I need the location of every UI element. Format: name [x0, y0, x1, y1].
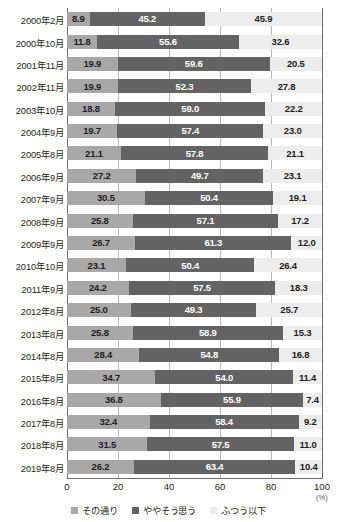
bar-row: 18.859.022.2 [67, 102, 322, 116]
bar-segment-ややそう思う: 61.3 [135, 236, 291, 250]
bar-value-label: 32.6 [272, 37, 290, 47]
bar-segment-ふつう以下: 18.3 [275, 281, 322, 295]
category-label: 2017年8月 [1, 416, 64, 430]
bar-row: 19.959.620.5 [67, 57, 322, 71]
bar-row: 25.857.117.2 [67, 214, 322, 228]
bar-value-label: 50.4 [181, 261, 199, 271]
legend-item[interactable]: その通り [71, 503, 118, 517]
category-label: 2018年8月 [1, 438, 64, 452]
bar-value-label: 50.4 [200, 193, 218, 203]
bar-value-label: 52.3 [176, 82, 194, 92]
bar-row: 28.454.816.8 [67, 348, 322, 362]
x-tick-label-0: 0 [64, 481, 69, 492]
bar-value-label: 45.9 [255, 14, 273, 24]
category-label: 2011年9月 [1, 282, 64, 296]
bar-row: 19.757.423.0 [67, 124, 322, 138]
bar-value-label: 54.8 [200, 350, 218, 360]
bar-segment-その通り: 31.5 [67, 437, 147, 451]
category-label: 2016年8月 [1, 394, 64, 408]
bar-value-label: 30.5 [97, 193, 115, 203]
bar-value-label: 61.3 [204, 238, 222, 248]
bar-row: 30.550.419.1 [67, 191, 322, 205]
bar-value-label: 7.4 [306, 395, 319, 405]
legend-label: ややそう思う [143, 503, 196, 517]
bar-row: 32.458.49.2 [67, 415, 322, 429]
bar-value-label: 19.9 [84, 82, 102, 92]
plot-area: 8.945.245.911.855.632.619.959.620.519.95… [67, 8, 322, 478]
bar-row: 26.761.312.0 [67, 236, 322, 250]
bar-value-label: 18.3 [290, 283, 308, 293]
bar-segment-その通り: 19.9 [67, 79, 118, 93]
stacked-bar-chart: 2000年2月2000年10月2001年11月2002年11月2003年10月2… [0, 0, 337, 522]
bar-value-label: 24.2 [89, 283, 107, 293]
legend-item[interactable]: ややそう思う [132, 503, 196, 517]
bar-segment-ややそう思う: 50.4 [145, 191, 274, 205]
x-tick-label-60: 60 [215, 481, 226, 492]
bar-segment-その通り: 26.2 [67, 460, 134, 474]
bar-segment-その通り: 24.2 [67, 281, 129, 295]
bar-value-label: 12.0 [298, 238, 316, 248]
bar-segment-ややそう思う: 50.4 [126, 258, 255, 272]
bar-value-label: 26.7 [92, 238, 110, 248]
bar-segment-ややそう思う: 54.0 [155, 370, 293, 384]
bar-value-label: 49.7 [191, 171, 209, 181]
bar-value-label: 25.8 [91, 216, 109, 226]
bar-segment-その通り: 19.7 [67, 124, 117, 138]
category-label: 2006年9月 [1, 170, 64, 184]
bar-segment-ふつう以下: 45.9 [205, 12, 322, 26]
bar-value-label: 19.1 [289, 193, 307, 203]
bar-value-label: 57.8 [186, 149, 204, 159]
bar-value-label: 23.1 [284, 171, 302, 181]
bar-value-label: 58.4 [215, 417, 233, 427]
bar-value-label: 15.3 [294, 328, 312, 338]
bar-row: 23.150.426.4 [67, 258, 322, 272]
bar-segment-その通り: 23.1 [67, 258, 126, 272]
bar-segment-ふつう以下: 23.0 [263, 124, 322, 138]
axis-unit-label: (%) [316, 493, 328, 502]
bar-row: 36.855.97.4 [67, 393, 322, 407]
bar-segment-ふつう以下: 22.2 [265, 102, 322, 116]
bar-value-label: 22.2 [285, 104, 303, 114]
bar-value-label: 54.0 [215, 373, 233, 383]
bar-segment-ややそう思う: 49.3 [131, 303, 257, 317]
bar-row: 34.754.011.4 [67, 370, 322, 384]
legend-label: ふつう以下 [221, 503, 266, 517]
bar-value-label: 25.0 [90, 305, 108, 315]
bar-segment-ややそう思う: 57.1 [133, 214, 278, 228]
gridline-100 [322, 8, 323, 478]
legend-swatch-futsuuika [210, 507, 217, 514]
bar-segment-ややそう思う: 57.8 [121, 146, 268, 160]
bar-value-label: 31.5 [98, 440, 116, 450]
legend-swatch-yayasoomou [132, 507, 139, 514]
bar-value-label: 11.4 [299, 373, 316, 383]
bar-value-label: 19.7 [83, 126, 101, 136]
bar-value-label: 59.0 [181, 104, 199, 114]
bar-segment-ややそう思う: 57.5 [147, 437, 294, 451]
bar-segment-ややそう思う: 57.5 [129, 281, 276, 295]
bar-row: 31.557.511.0 [67, 437, 322, 451]
category-label: 2019年8月 [1, 461, 64, 475]
bar-segment-その通り: 11.8 [67, 35, 97, 49]
bar-segment-その通り: 36.8 [67, 393, 161, 407]
bar-segment-ややそう思う: 59.6 [118, 57, 270, 71]
bar-row: 27.249.723.1 [67, 169, 322, 183]
bar-segment-ややそう思う: 45.2 [90, 12, 205, 26]
bar-value-label: 59.6 [185, 59, 203, 69]
bar-row: 25.049.325.7 [67, 303, 322, 317]
bar-segment-その通り: 25.8 [67, 214, 133, 228]
legend-item[interactable]: ふつう以下 [210, 503, 266, 517]
bar-value-label: 19.9 [84, 59, 102, 69]
bar-segment-その通り: 27.2 [67, 169, 136, 183]
bar-segment-ふつう以下: 11.4 [293, 370, 322, 384]
bar-value-label: 25.7 [280, 305, 298, 315]
bar-value-label: 55.6 [159, 37, 177, 47]
bar-value-label: 36.8 [105, 395, 123, 405]
bar-segment-その通り: 25.0 [67, 303, 131, 317]
bar-segment-ふつう以下: 12.0 [291, 236, 322, 250]
bar-segment-その通り: 32.4 [67, 415, 150, 429]
category-label: 2013年8月 [1, 327, 64, 341]
category-label: 2010年10月 [1, 259, 64, 273]
bar-value-label: 57.1 [197, 216, 215, 226]
bar-segment-ややそう思う: 52.3 [118, 79, 251, 93]
bar-value-label: 21.1 [286, 149, 304, 159]
